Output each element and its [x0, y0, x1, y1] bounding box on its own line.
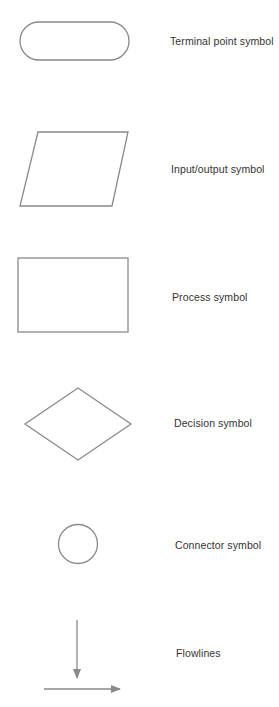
connector-symbol-label: Connector symbol: [175, 539, 261, 551]
input-output-symbol-shape: [20, 132, 128, 206]
process-symbol-label: Process symbol: [172, 291, 248, 303]
terminal-symbol-shape: [20, 22, 129, 60]
symbols-drawing: [0, 0, 279, 707]
input-output-symbol-label: Input/output symbol: [171, 163, 265, 175]
connector-symbol-shape: [59, 525, 98, 564]
flowchart-symbols-legend: Terminal point symbol Input/output symbo…: [0, 0, 279, 707]
decision-symbol-label: Decision symbol: [174, 417, 252, 429]
flowlines-label: Flowlines: [176, 647, 221, 659]
decision-symbol-shape: [25, 388, 131, 460]
terminal-symbol-label: Terminal point symbol: [170, 35, 274, 47]
process-symbol-shape: [18, 258, 128, 332]
